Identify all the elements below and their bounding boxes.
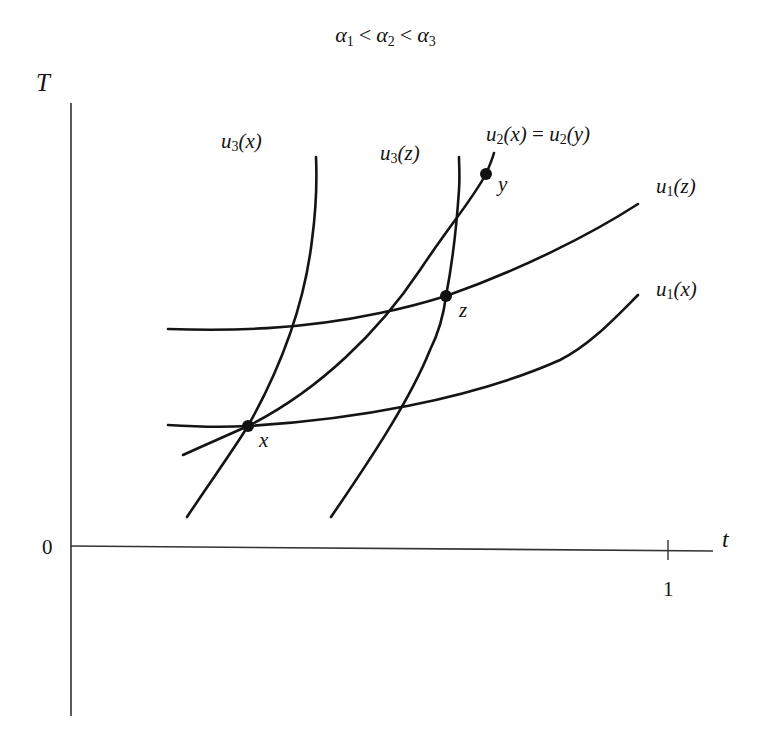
subscript: 1: [347, 34, 354, 49]
label-u2: u2(x) = u2(y): [486, 124, 590, 145]
curve-u3-x: [187, 157, 316, 517]
fn: u: [221, 129, 232, 153]
arg: (z): [674, 174, 696, 198]
subscript: 2: [497, 132, 504, 147]
fn: u: [380, 141, 391, 165]
label-u3-z: u3(z): [380, 143, 420, 164]
arg: (x): [504, 122, 527, 146]
alpha-2: α: [376, 22, 388, 47]
subscript: 3: [429, 34, 436, 49]
point-label-z: z: [459, 300, 467, 321]
arg: (z): [398, 141, 420, 165]
point-label-y: y: [498, 174, 507, 195]
less-than: <: [354, 22, 376, 47]
x-axis: [71, 546, 713, 551]
point-z: [440, 290, 452, 302]
fn: u: [656, 277, 667, 301]
subscript: 2: [388, 34, 395, 49]
label-u1-z: u1(z): [656, 176, 696, 197]
fn: u: [656, 174, 667, 198]
point-x: [242, 420, 254, 432]
point-label-x: x: [259, 430, 268, 451]
subscript: 3: [232, 139, 239, 154]
label-u3-x: u3(x): [221, 131, 262, 152]
x-tick-label-1: 1: [663, 579, 674, 600]
fn: u: [486, 122, 497, 146]
subscript: 1: [667, 184, 674, 199]
subscript: 2: [560, 132, 567, 147]
diagram-canvas: [0, 0, 771, 754]
curve-u2: [183, 153, 494, 455]
curve-u1-z: [168, 204, 638, 330]
less-than: <: [395, 22, 417, 47]
arg: (y): [567, 122, 590, 146]
y-axis-label: T: [36, 70, 50, 95]
x-axis-label: t: [722, 527, 729, 551]
origin-label: 0: [42, 537, 53, 558]
alpha-3: α: [417, 22, 429, 47]
equals: =: [527, 122, 549, 146]
fn: u: [549, 122, 560, 146]
alpha-1: α: [335, 22, 347, 47]
curve-u3-z: [331, 157, 459, 517]
label-u1-x: u1(x): [656, 279, 697, 300]
subscript: 3: [391, 151, 398, 166]
point-y: [480, 168, 492, 180]
chart-title: α1<α2<α3: [0, 22, 771, 48]
subscript: 1: [667, 287, 674, 302]
arg: (x): [674, 277, 697, 301]
arg: (x): [239, 129, 262, 153]
